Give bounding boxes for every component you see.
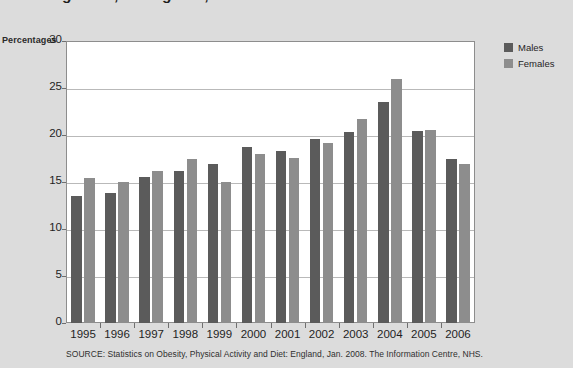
legend-item-males: Males — [504, 42, 570, 53]
bar-females-2005 — [425, 130, 436, 323]
y-axis-tick-5: 5 — [36, 268, 62, 280]
bar-females-1995 — [84, 178, 95, 323]
bar-males-2004 — [378, 102, 389, 323]
bar-females-2004 — [391, 79, 402, 323]
bar-females-1998 — [187, 159, 198, 324]
bar-males-1996 — [105, 193, 116, 323]
bar-females-1999 — [221, 182, 232, 323]
bar-males-1997 — [139, 177, 150, 323]
y-axis-tick-20: 20 — [36, 127, 62, 139]
legend-label-males: Males — [518, 42, 543, 53]
page-title: gender, in England, 1995-2006 — [62, 0, 482, 5]
y-axis-tick-15: 15 — [36, 174, 62, 186]
bar-females-2000 — [255, 154, 266, 323]
legend-swatch-males — [504, 43, 513, 52]
bar-males-2006 — [446, 159, 457, 323]
bar-males-1998 — [174, 171, 185, 323]
legend-swatch-females — [504, 59, 513, 68]
bar-females-2006 — [459, 164, 470, 323]
bar-females-2001 — [289, 158, 300, 323]
legend-label-females: Females — [518, 58, 554, 69]
x-axis-tick-2006: 2006 — [436, 328, 480, 340]
bar-males-2003 — [344, 132, 355, 323]
source-note: SOURCE: Statistics on Obesity, Physical … — [66, 349, 483, 359]
bar-females-1997 — [152, 171, 163, 323]
legend: Males Females — [504, 42, 570, 74]
bar-males-1999 — [208, 164, 219, 323]
bar-females-2002 — [323, 143, 334, 323]
bar-series-layer — [66, 41, 475, 323]
legend-item-females: Females — [504, 58, 570, 69]
bar-males-2000 — [242, 147, 253, 323]
y-axis-tick-mark — [62, 323, 66, 324]
y-axis-tick-25: 25 — [36, 80, 62, 92]
bar-males-2001 — [276, 151, 287, 323]
bar-females-1996 — [118, 182, 129, 323]
bar-males-2002 — [310, 139, 321, 323]
bar-males-1995 — [71, 196, 82, 323]
bar-females-2003 — [357, 119, 368, 323]
bar-males-2005 — [412, 131, 423, 323]
y-axis-tick-30: 30 — [36, 33, 62, 45]
y-axis-tick-0: 0 — [36, 315, 62, 327]
chart-page: gender, in England, 1995-2006 Percentage… — [0, 0, 573, 368]
y-axis-tick-10: 10 — [36, 221, 62, 233]
